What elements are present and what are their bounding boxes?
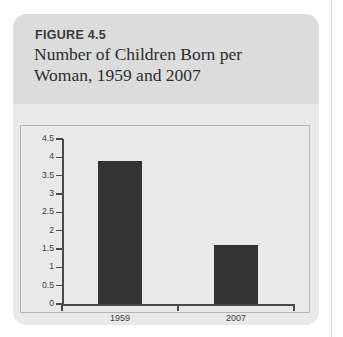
y-axis-tick-label: 2 — [14, 226, 54, 235]
figure-number-label: FIGURE 4.5 — [35, 28, 106, 42]
bar-2007 — [214, 245, 258, 304]
chart-plot-frame — [20, 125, 310, 313]
figure-card: FIGURE 4.5 Number of Children Born per W… — [13, 14, 319, 325]
x-axis-tick — [293, 304, 295, 311]
y-axis-tick-label: 1.5 — [14, 244, 54, 253]
figure-card-header: FIGURE 4.5 Number of Children Born per W… — [13, 14, 319, 104]
chart-plot-region: 00.511.522.533.544.5 19592007 — [13, 104, 319, 325]
y-axis-tick-labels: 00.511.522.533.544.5 — [13, 104, 54, 325]
figure-title: Number of Children Born per Woman, 1959 … — [34, 44, 302, 86]
bar-1959 — [98, 161, 142, 304]
y-axis-tick-label: 4.5 — [14, 134, 54, 143]
x-axis-tick — [177, 304, 179, 311]
y-axis-tick-label: 4 — [14, 152, 54, 161]
y-axis-line — [62, 139, 64, 305]
x-axis-tick — [61, 304, 63, 311]
page-canvas: FIGURE 4.5 Number of Children Born per W… — [0, 0, 343, 337]
y-axis-tick-label: 0.5 — [14, 281, 54, 290]
x-axis-tick-label: 2007 — [196, 313, 276, 323]
y-axis-tick-label: 3.5 — [14, 171, 54, 180]
page-column-rule — [331, 0, 332, 337]
y-axis-tick-label: 2.5 — [14, 207, 54, 216]
y-axis-tick-label: 0 — [14, 299, 54, 308]
y-axis-tick-label: 1 — [14, 262, 54, 271]
x-axis-tick-label: 1959 — [80, 313, 160, 323]
y-axis-tick-label: 3 — [14, 189, 54, 198]
